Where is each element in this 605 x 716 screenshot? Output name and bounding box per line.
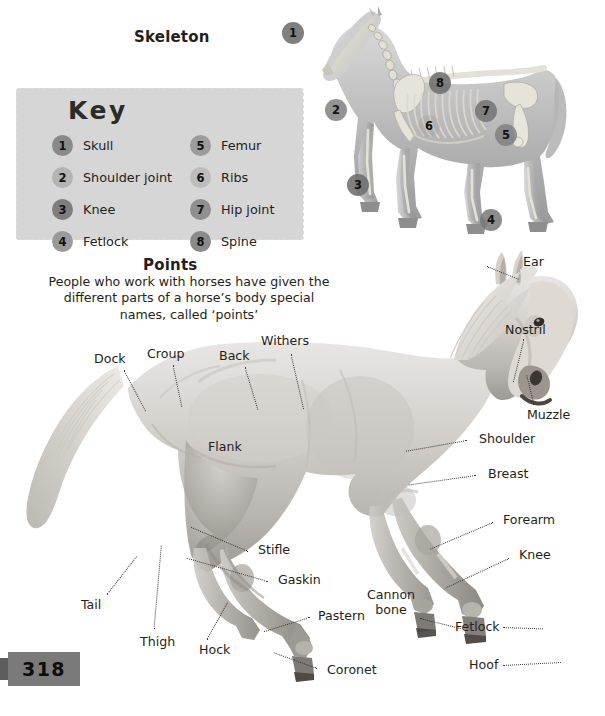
key-label-5: Femur: [221, 138, 261, 153]
key-item-6: 6 Ribs: [190, 164, 274, 191]
book-page: Skeleton: [0, 0, 605, 716]
label-forearm: Forearm: [503, 513, 555, 528]
key-column-right: 5 Femur 6 Ribs 7 Hip joint 8 Spine: [190, 132, 274, 260]
key-dot-6: 6: [190, 167, 211, 188]
key-label-7: Hip joint: [221, 202, 274, 217]
label-coronet: Coronet: [327, 663, 377, 678]
label-nostril: Nostril: [505, 323, 546, 338]
skeleton-marker-5: 5: [495, 124, 517, 146]
horse-skeleton-illustration: 1 2 3 4 5 6 7 8: [268, 6, 602, 242]
key-label-8: Spine: [221, 234, 257, 249]
skeleton-marker-6: 6: [418, 115, 440, 137]
key-item-3: 3 Knee: [52, 196, 172, 223]
key-label-4: Fetlock: [83, 234, 128, 249]
skeleton-marker-4: 4: [480, 209, 502, 231]
label-gaskin: Gaskin: [278, 573, 321, 588]
page-number-text: 318: [22, 658, 66, 680]
key-column-left: 1 Skull 2 Shoulder joint 3 Knee 4 Fetloc…: [52, 132, 172, 260]
skeleton-section-title: Skeleton: [134, 28, 210, 46]
label-back: Back: [219, 349, 250, 364]
key-dot-1: 1: [52, 135, 73, 156]
label-cannon-bone: Cannon bone: [362, 588, 420, 617]
page-number: 318: [8, 652, 80, 686]
label-tail: Tail: [81, 598, 101, 613]
key-label-2: Shoulder joint: [83, 170, 172, 185]
key-dot-3: 3: [52, 199, 73, 220]
label-pastern: Pastern: [318, 609, 365, 624]
key-label-6: Ribs: [221, 170, 248, 185]
label-dock: Dock: [94, 352, 126, 367]
key-dot-7: 7: [190, 199, 211, 220]
label-hoof: Hoof: [469, 658, 498, 673]
label-withers: Withers: [261, 334, 309, 349]
label-flank: Flank: [208, 440, 242, 455]
skeleton-marker-7: 7: [475, 100, 497, 122]
skeleton-key-panel: Key 1 Skull 2 Shoulder joint 3 Knee 4 Fe…: [18, 90, 302, 238]
key-dot-2: 2: [52, 167, 73, 188]
label-knee: Knee: [519, 548, 551, 563]
skeleton-marker-2: 2: [325, 99, 347, 121]
key-item-2: 2 Shoulder joint: [52, 164, 172, 191]
skeleton-marker-1: 1: [282, 22, 304, 44]
key-label-3: Knee: [83, 202, 115, 217]
label-stifle: Stifle: [258, 543, 290, 558]
label-muzzle: Muzzle: [527, 408, 570, 423]
skeleton-marker-3: 3: [347, 174, 369, 196]
key-item-5: 5 Femur: [190, 132, 274, 159]
key-dot-5: 5: [190, 135, 211, 156]
label-ear: Ear: [523, 255, 544, 270]
label-hock: Hock: [199, 643, 230, 658]
label-shoulder: Shoulder: [479, 432, 535, 447]
label-thigh: Thigh: [140, 635, 175, 650]
skeleton-marker-8: 8: [429, 72, 451, 94]
key-item-1: 1 Skull: [52, 132, 172, 159]
key-item-7: 7 Hip joint: [190, 196, 274, 223]
label-breast: Breast: [488, 467, 529, 482]
label-croup: Croup: [147, 347, 184, 362]
label-fetlock: Fetlock: [455, 620, 500, 635]
key-label-1: Skull: [83, 138, 113, 153]
key-title: Key: [68, 96, 128, 125]
